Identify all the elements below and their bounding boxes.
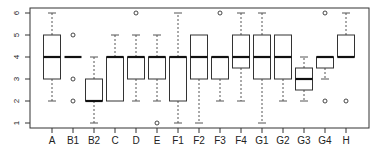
box-b1 bbox=[65, 33, 82, 103]
box-g4 bbox=[317, 11, 334, 103]
box-f2 bbox=[191, 35, 208, 123]
y-tick-label: 6 bbox=[12, 10, 21, 15]
outlier-point bbox=[323, 11, 327, 15]
y-tick-label: 1 bbox=[12, 120, 21, 125]
box-g1 bbox=[254, 13, 271, 123]
x-axis: AB1B2CDEF1F2F3F4G1G2G3G4H bbox=[49, 128, 350, 146]
outlier-point bbox=[71, 77, 75, 81]
outlier-point bbox=[134, 11, 138, 15]
box-f3 bbox=[212, 11, 229, 101]
box-body bbox=[128, 57, 145, 79]
x-tick-label: F3 bbox=[214, 135, 226, 146]
y-tick-label: 3 bbox=[12, 76, 21, 81]
box-h bbox=[338, 13, 355, 103]
boxplot-chart: 123456 AB1B2CDEF1F2F3F4G1G2G3G4H bbox=[0, 0, 378, 155]
box-body bbox=[338, 35, 355, 57]
x-tick-label: G4 bbox=[318, 135, 332, 146]
box-body bbox=[86, 79, 103, 101]
box-e bbox=[149, 35, 166, 125]
outlier-point bbox=[71, 99, 75, 103]
x-tick-label: B2 bbox=[88, 135, 101, 146]
x-tick-label: G2 bbox=[276, 135, 290, 146]
box-body bbox=[107, 57, 124, 101]
box-c bbox=[107, 35, 124, 101]
box-a bbox=[44, 13, 61, 101]
x-tick-label: F4 bbox=[235, 135, 247, 146]
x-tick-label: F1 bbox=[172, 135, 184, 146]
outlier-point bbox=[155, 121, 159, 125]
box-f4 bbox=[233, 13, 250, 101]
x-tick-label: H bbox=[342, 135, 349, 146]
box-f1 bbox=[170, 13, 187, 123]
x-tick-label: G3 bbox=[297, 135, 311, 146]
y-axis: 123456 bbox=[12, 10, 30, 125]
box-body bbox=[212, 57, 229, 79]
box-g3 bbox=[296, 57, 313, 101]
x-tick-label: G1 bbox=[255, 135, 269, 146]
y-tick-label: 2 bbox=[12, 98, 21, 103]
outlier-point bbox=[71, 33, 75, 37]
box-body bbox=[233, 35, 250, 68]
x-tick-label: D bbox=[132, 135, 139, 146]
outlier-point bbox=[218, 11, 222, 15]
outlier-point bbox=[323, 99, 327, 103]
x-tick-label: F2 bbox=[193, 135, 205, 146]
box-body bbox=[149, 57, 166, 79]
x-tick-label: B1 bbox=[67, 135, 80, 146]
box-b2 bbox=[86, 57, 103, 123]
outlier-point bbox=[344, 99, 348, 103]
x-tick-label: C bbox=[111, 135, 118, 146]
box-body bbox=[317, 57, 334, 68]
y-tick-label: 4 bbox=[12, 54, 21, 59]
box-body bbox=[170, 57, 187, 101]
box-g2 bbox=[275, 35, 292, 101]
x-tick-label: E bbox=[154, 135, 161, 146]
x-tick-label: A bbox=[49, 135, 56, 146]
boxes-layer bbox=[44, 11, 355, 125]
box-d bbox=[128, 11, 145, 101]
y-tick-label: 5 bbox=[12, 32, 21, 37]
